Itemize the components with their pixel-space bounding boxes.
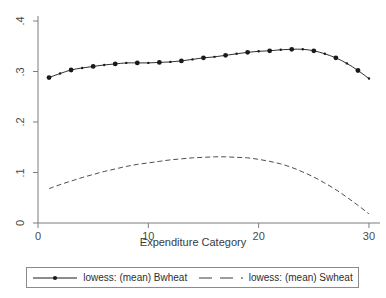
data-point-marker <box>169 61 171 63</box>
y-axis-ticks <box>33 21 38 223</box>
data-point-marker <box>311 48 316 53</box>
legend-label-swheat: lowess: (mean) Swheat <box>249 272 353 283</box>
data-point-marker <box>201 55 206 60</box>
x-axis-ticks <box>38 223 369 228</box>
chart-legend: lowess: (mean) Bwheat lowess: (mean) Swh… <box>26 267 359 288</box>
data-point-marker <box>191 58 193 60</box>
data-point-marker <box>257 50 259 52</box>
data-point-marker <box>223 53 228 58</box>
legend-key-bwheat <box>32 272 78 284</box>
data-point-marker <box>47 75 52 80</box>
y-tick-label: .4 <box>12 10 28 32</box>
legend-entry-bwheat[interactable]: lowess: (mean) Bwheat <box>30 272 189 284</box>
data-point-marker <box>69 68 74 73</box>
series-bwheat <box>47 47 371 80</box>
data-point-marker <box>103 64 105 66</box>
data-point-marker <box>81 67 83 69</box>
data-point-marker <box>135 61 140 66</box>
chart-canvas <box>0 0 386 250</box>
series-swheat <box>49 157 369 214</box>
data-point-marker <box>280 49 282 51</box>
data-point-marker <box>302 48 304 50</box>
data-series-layer <box>47 47 371 214</box>
y-tick-label: .2 <box>12 111 28 133</box>
data-point-marker <box>289 47 294 52</box>
series-line <box>49 157 369 214</box>
data-point-marker <box>157 60 162 65</box>
data-point-marker <box>245 50 250 55</box>
plot-area: .4.3.2.10 0102030 <box>0 0 386 250</box>
data-point-marker <box>235 53 237 55</box>
data-point-marker <box>179 59 184 64</box>
legend-entry-swheat[interactable]: lowess: (mean) Swheat <box>196 272 355 284</box>
data-point-marker <box>333 55 338 60</box>
data-point-marker <box>113 62 118 67</box>
data-point-marker <box>213 56 215 58</box>
data-point-marker <box>346 62 348 64</box>
data-point-marker <box>91 64 96 69</box>
legend-label-bwheat: lowess: (mean) Bwheat <box>83 272 187 283</box>
legend-key-swheat <box>198 272 244 284</box>
chart-figure: .4.3.2.10 0102030 Expenditure Category l… <box>0 0 386 298</box>
data-point-marker <box>125 62 127 64</box>
data-point-marker <box>356 68 361 73</box>
series-line <box>49 49 369 78</box>
y-tick-label: .3 <box>12 61 28 83</box>
data-point-marker <box>59 72 61 74</box>
x-axis-title: Expenditure Category <box>0 236 386 248</box>
data-point-marker <box>324 53 326 55</box>
y-tick-label: .1 <box>12 162 28 184</box>
data-point-marker <box>147 62 149 64</box>
data-point-marker <box>267 48 272 53</box>
data-point-marker <box>368 77 370 79</box>
